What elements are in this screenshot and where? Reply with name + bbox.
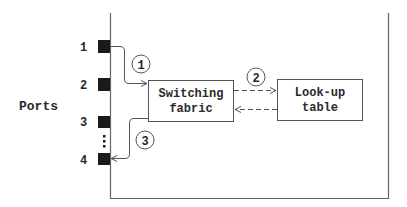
step-3-label: 3 bbox=[141, 135, 148, 149]
step-1-label: 1 bbox=[137, 59, 144, 73]
switching-fabric-box[interactable]: Switching fabric bbox=[149, 81, 234, 122]
switching-fabric-line2: fabric bbox=[169, 102, 212, 116]
port-3[interactable] bbox=[98, 116, 110, 128]
switching-fabric-line1: Switching bbox=[159, 87, 224, 101]
more-ports-ellipsis-icon bbox=[103, 135, 106, 148]
ports-label: Ports bbox=[19, 99, 58, 114]
step-1-badge: 1 bbox=[132, 55, 150, 73]
port-3-label: 3 bbox=[80, 116, 87, 130]
port-2[interactable] bbox=[98, 78, 110, 91]
port-4-label: 4 bbox=[80, 154, 87, 168]
switch-architecture-diagram: Ports 1 2 3 4 Switching fabric Look-up t… bbox=[0, 0, 407, 207]
lookup-table-box[interactable]: Look-up table bbox=[278, 80, 363, 121]
step-2-badge: 2 bbox=[247, 68, 265, 86]
port-2-label: 2 bbox=[80, 79, 87, 93]
step-2-label: 2 bbox=[252, 72, 259, 86]
step-3-badge: 3 bbox=[136, 131, 154, 149]
port-1-label: 1 bbox=[80, 41, 87, 55]
lookup-table-line2: table bbox=[302, 101, 338, 115]
port-4[interactable] bbox=[98, 153, 110, 165]
lookup-table-line1: Look-up bbox=[295, 86, 345, 100]
port-1[interactable] bbox=[98, 40, 110, 53]
